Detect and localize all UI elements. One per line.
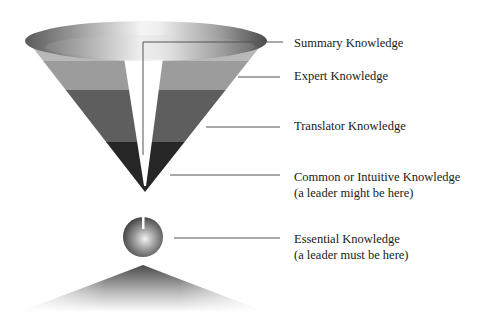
base-pyramid-fade [20,265,265,312]
label-common-knowledge: Common or Intuitive Knowledge (a leader … [294,169,460,201]
label-essential-knowledge: Essential Knowledge (a leader must be he… [294,231,409,263]
label-translator-knowledge: Translator Knowledge [294,118,406,134]
label-summary-text: Summary Knowledge [294,36,403,50]
knowledge-funnel-diagram [0,0,485,329]
label-summary-knowledge: Summary Knowledge [294,35,403,51]
label-essential-note: (a leader must be here) [294,247,409,263]
label-expert-text: Expert Knowledge [294,69,388,83]
funnel-rim-inner [45,35,255,59]
label-common-note: (a leader might be here) [294,185,460,201]
label-translator-text: Translator Knowledge [294,119,406,133]
label-essential-text: Essential Knowledge [294,231,409,247]
label-common-text: Common or Intuitive Knowledge [294,169,460,185]
label-expert-knowledge: Expert Knowledge [294,68,388,84]
sphere-slit [142,217,145,229]
